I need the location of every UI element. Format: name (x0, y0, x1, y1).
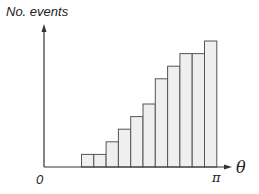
y-axis-arrow-icon (42, 24, 47, 32)
x-axis-arrow-icon (224, 165, 232, 170)
histogram-bar (205, 41, 217, 167)
histogram-chart (0, 0, 259, 194)
histogram-bar (192, 54, 204, 167)
histogram-bar (131, 117, 143, 167)
y-axis-label: No. events (6, 4, 68, 19)
histogram-bar (118, 129, 130, 167)
histogram-bar (82, 154, 94, 167)
x-origin-label: 0 (36, 172, 43, 187)
x-axis-label: θ (236, 158, 246, 177)
bars-group (82, 41, 217, 167)
histogram-bar (106, 142, 118, 167)
histogram-bar (168, 66, 180, 167)
histogram-bar (143, 104, 155, 167)
x-pi-label: π (212, 170, 221, 185)
histogram-bar (155, 79, 167, 167)
histogram-bar (180, 54, 192, 167)
histogram-bar (94, 154, 106, 167)
